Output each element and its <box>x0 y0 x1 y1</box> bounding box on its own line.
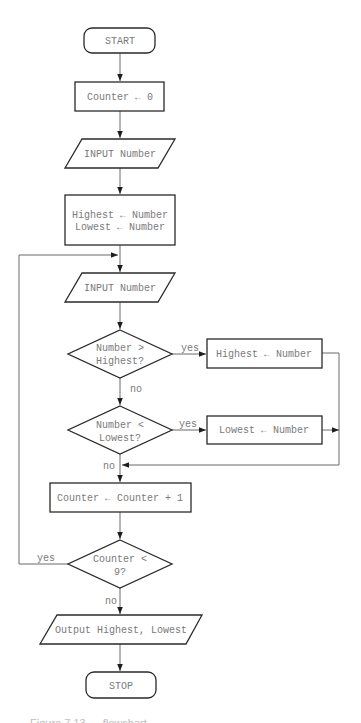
check-high-no-label: no <box>130 384 142 395</box>
inc-counter-label: Counter ← Counter + 1 <box>57 493 183 504</box>
input-loop-io: INPUT Number <box>65 273 175 302</box>
set-low-process: Lowest ← Number <box>207 416 322 444</box>
input-first-label: INPUT Number <box>84 149 156 160</box>
start-terminator: START <box>84 28 155 53</box>
init-minmax-process: Highest ← Number Lowest ← Number <box>65 195 175 245</box>
flowchart: START Counter ← 0 INPUT Number Highest ←… <box>0 0 361 723</box>
check-high-line2: Highest? <box>96 356 144 367</box>
output-io: Output Highest, Lowest <box>40 615 202 644</box>
figure-caption: Figure 7.13 … flowchart … <box>0 716 361 723</box>
check-low-yes-label: yes <box>179 419 197 430</box>
check-counter-line2: 9? <box>114 567 126 578</box>
check-low-line1: Number < <box>96 420 144 431</box>
check-low-line2: Lowest? <box>99 433 141 444</box>
set-high-label: Highest ← Number <box>216 349 312 360</box>
check-low-decision: Number < Lowest? <box>68 406 172 454</box>
edge-set-high-merge <box>322 353 339 465</box>
check-counter-no-label: no <box>105 596 117 607</box>
output-label: Output Highest, Lowest <box>55 625 187 636</box>
init-lowest-label: Lowest ← Number <box>75 222 165 233</box>
input-first-io: INPUT Number <box>65 139 175 168</box>
stop-label: STOP <box>109 681 133 692</box>
check-low-no-label: no <box>103 461 115 472</box>
check-high-yes-label: yes <box>181 343 199 354</box>
check-high-line1: Number > <box>96 343 144 354</box>
init-counter-process: Counter ← 0 <box>75 82 164 111</box>
init-highest-label: Highest ← Number <box>72 210 168 221</box>
set-low-label: Lowest ← Number <box>219 425 309 436</box>
check-counter-decision: Counter < 9? <box>68 540 172 588</box>
init-counter-label: Counter ← 0 <box>87 92 153 103</box>
input-loop-label: INPUT Number <box>84 283 156 294</box>
stop-terminator: STOP <box>86 672 156 698</box>
check-counter-line1: Counter < <box>93 554 147 565</box>
check-counter-yes-label: yes <box>37 553 55 564</box>
start-label: START <box>105 36 135 47</box>
check-high-decision: Number > Highest? <box>68 330 172 378</box>
inc-counter-process: Counter ← Counter + 1 <box>50 483 191 512</box>
set-high-process: Highest ← Number <box>207 339 322 368</box>
